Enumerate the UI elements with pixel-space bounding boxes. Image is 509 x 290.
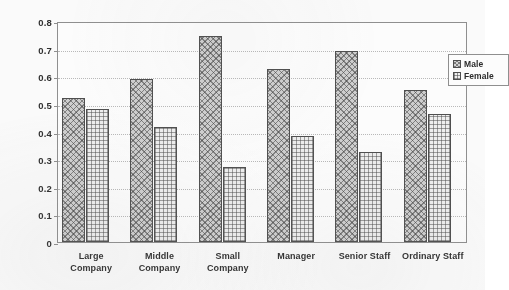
- y-axis-tick-label: 0.3: [8, 155, 52, 166]
- y-axis-tick-mark: [54, 161, 58, 162]
- y-axis-tick-mark: [54, 106, 58, 107]
- male-pattern-swatch-icon: [453, 60, 461, 68]
- bar-female: [86, 109, 109, 242]
- bar-series-container: [58, 23, 466, 242]
- female-pattern-swatch-icon: [453, 72, 461, 80]
- bar-male: [335, 51, 358, 242]
- bar-group: [331, 23, 399, 242]
- legend-item-male: Male: [453, 58, 504, 70]
- y-axis-tick-label: 0: [8, 238, 52, 249]
- x-axis-tick-label: Ordinary Staff: [391, 251, 475, 263]
- y-axis-tick-mark: [54, 78, 58, 79]
- y-axis-tick-mark: [54, 51, 58, 52]
- legend-item-female: Female: [453, 70, 504, 82]
- y-axis-tick-mark: [54, 189, 58, 190]
- bar-female: [223, 167, 246, 242]
- y-axis-tick-mark: [54, 134, 58, 135]
- bar-female: [359, 152, 382, 242]
- y-axis-tick-mark: [54, 244, 58, 245]
- legend: Male Female: [448, 54, 509, 86]
- bar-male: [267, 69, 290, 242]
- y-axis-tick-label: 0.2: [8, 182, 52, 193]
- bar-female: [291, 136, 314, 242]
- y-axis-tick-label: 0.1: [8, 210, 52, 221]
- bar-male: [404, 90, 427, 242]
- y-axis-tick-label: 0.8: [8, 17, 52, 28]
- legend-label-female: Female: [464, 71, 494, 81]
- bar-male: [199, 36, 222, 242]
- bar-male: [130, 79, 153, 242]
- plot-area: Male Female: [57, 22, 467, 243]
- bar-group: [126, 23, 194, 242]
- y-axis-tick-label: 0.6: [8, 72, 52, 83]
- bar-female: [428, 114, 451, 242]
- x-axis-tick-label-line: Ordinary Staff: [391, 251, 475, 263]
- y-axis-tick-mark: [54, 216, 58, 217]
- x-axis-tick-label-line: Company: [186, 263, 270, 275]
- legend-label-male: Male: [464, 59, 483, 69]
- bar-female: [154, 127, 177, 242]
- bar-group: [58, 23, 126, 242]
- bar-group: [195, 23, 263, 242]
- bar-group: [263, 23, 331, 242]
- y-axis-tick-label: 0.7: [8, 44, 52, 55]
- y-axis-tick-label: 0.5: [8, 99, 52, 110]
- bar-male: [62, 98, 85, 242]
- y-axis-tick-label: 0.4: [8, 127, 52, 138]
- y-axis-tick-mark: [54, 23, 58, 24]
